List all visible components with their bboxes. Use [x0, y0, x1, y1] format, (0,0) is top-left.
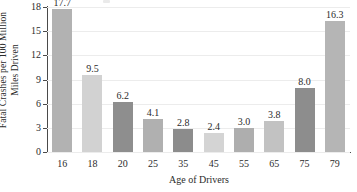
- y-axis-tick: [43, 152, 47, 153]
- bar-value-label: 3.8: [268, 110, 281, 120]
- y-axis-tick-label: 0: [36, 147, 41, 157]
- bar-value-label: 8.0: [298, 77, 311, 87]
- bar: 8.0: [295, 88, 315, 152]
- bar: 4.1: [143, 119, 163, 152]
- bar: 2.8: [173, 129, 193, 152]
- x-axis-tick-label: 20: [118, 159, 128, 169]
- bar: 3.0: [234, 128, 254, 152]
- x-axis-title: Age of Drivers: [47, 174, 351, 185]
- y-axis-tick: [43, 7, 47, 8]
- x-axis-tick-label: 45: [209, 159, 219, 169]
- bar-value-label: 17.7: [53, 0, 71, 8]
- bar-value-label: 6.2: [117, 91, 130, 101]
- y-axis-tick-label: 3: [36, 123, 41, 133]
- gridline: [47, 55, 350, 56]
- y-axis-title-line-1: Fatal Crashes per 100 Million: [0, 0, 10, 140]
- bar-chart: Fatal Crashes per 100 Million Miles Driv…: [0, 0, 357, 192]
- x-axis-tick-label: 18: [87, 159, 97, 169]
- bar-value-label: 3.0: [238, 117, 251, 127]
- x-axis-tick-label: 35: [178, 159, 188, 169]
- x-axis-tick-label: 25: [148, 159, 158, 169]
- bar-value-label: 2.8: [177, 118, 190, 128]
- y-axis-tick-label: 9: [36, 75, 41, 85]
- plot-area: 0369121518 17.79.56.24.12.82.43.03.88.01…: [47, 7, 350, 152]
- y-axis-tick-label: 6: [36, 99, 41, 109]
- bar: 17.7: [52, 9, 72, 152]
- bar: 3.8: [264, 121, 284, 152]
- x-axis-tick-label: 65: [269, 159, 279, 169]
- x-axis-tick-label: 55: [239, 159, 249, 169]
- gridline: [47, 31, 350, 32]
- y-axis-tick: [43, 80, 47, 81]
- x-axis-tick-label: 79: [330, 159, 340, 169]
- y-axis-title: Fatal Crashes per 100 Million Miles Driv…: [0, 0, 26, 140]
- gridline: [47, 7, 350, 8]
- bar: 9.5: [82, 75, 102, 152]
- y-axis-title-line-2: Miles Driven: [10, 0, 22, 140]
- bar: 2.4: [204, 133, 224, 152]
- y-axis-tick: [43, 31, 47, 32]
- x-axis-tick-label: 75: [300, 159, 310, 169]
- bar-value-label: 4.1: [147, 108, 160, 118]
- y-axis-tick: [43, 104, 47, 105]
- y-axis-tick: [43, 128, 47, 129]
- scan-artifact: [103, 0, 110, 3]
- gridline: [47, 152, 350, 153]
- bar-value-label: 16.3: [326, 10, 344, 20]
- y-axis-tick: [43, 55, 47, 56]
- x-axis-tick-label: 16: [57, 159, 67, 169]
- bar: 6.2: [113, 102, 133, 152]
- y-axis-tick-label: 12: [31, 50, 41, 60]
- bar-value-label: 9.5: [86, 64, 99, 74]
- y-axis-tick-label: 15: [31, 26, 41, 36]
- y-axis-tick-label: 18: [31, 2, 41, 12]
- bar: 16.3: [325, 21, 345, 152]
- bar-value-label: 2.4: [207, 122, 220, 132]
